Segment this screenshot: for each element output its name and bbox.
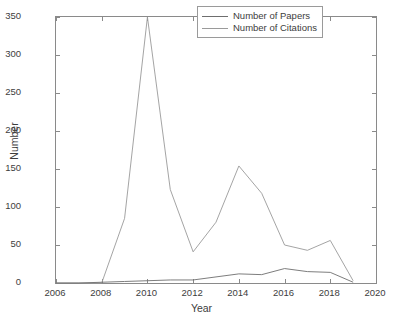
chart-figure: Number Year 050100150200250300350 200620… xyxy=(0,0,403,326)
y-tick-label: 200 xyxy=(0,125,21,135)
legend-swatch-papers xyxy=(202,16,228,17)
legend-item[interactable]: Number of Papers xyxy=(202,10,317,22)
x-tick-label: 2006 xyxy=(33,288,77,298)
legend-label-citations: Number of Citations xyxy=(233,23,317,33)
y-tick-label: 100 xyxy=(0,201,21,211)
y-axis-title: Number xyxy=(8,81,20,201)
legend-swatch-citations xyxy=(202,28,228,29)
x-tick-mark xyxy=(376,279,377,283)
x-tick-label: 2018 xyxy=(307,288,351,298)
plot-area xyxy=(55,16,377,284)
y-tick-mark xyxy=(372,283,376,284)
x-tick-label: 2020 xyxy=(353,288,397,298)
x-tick-label: 2008 xyxy=(79,288,123,298)
series-lines xyxy=(56,17,376,283)
y-tick-label: 50 xyxy=(0,239,21,249)
series-line xyxy=(56,17,353,283)
x-axis-title: Year xyxy=(0,302,403,314)
x-tick-label: 2010 xyxy=(124,288,168,298)
y-tick-label: 350 xyxy=(0,11,21,21)
legend-label-papers: Number of Papers xyxy=(233,11,310,21)
legend-item[interactable]: Number of Citations xyxy=(202,22,317,34)
y-tick-label: 250 xyxy=(0,87,21,97)
x-tick-mark xyxy=(376,17,377,21)
y-tick-label: 0 xyxy=(0,277,21,287)
x-tick-label: 2012 xyxy=(170,288,214,298)
x-tick-label: 2014 xyxy=(216,288,260,298)
y-tick-label: 300 xyxy=(0,49,21,59)
chart-legend[interactable]: Number of Papers Number of Citations xyxy=(197,6,323,38)
y-tick-label: 150 xyxy=(0,163,21,173)
series-line xyxy=(56,269,353,283)
x-tick-label: 2016 xyxy=(262,288,306,298)
